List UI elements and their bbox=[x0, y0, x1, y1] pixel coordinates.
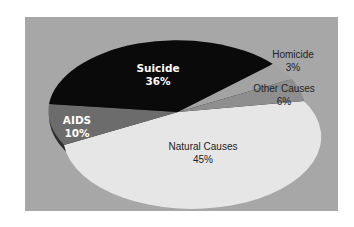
label-suicide: Suicide 36% bbox=[136, 62, 179, 88]
label-natural-causes: Natural Causes 45% bbox=[169, 140, 238, 166]
label-homicide: Homicide 3% bbox=[272, 48, 314, 74]
pie-chart bbox=[0, 0, 354, 227]
label-other-causes: Other Causes 6% bbox=[253, 82, 315, 108]
label-aids: AIDS 10% bbox=[63, 114, 91, 140]
